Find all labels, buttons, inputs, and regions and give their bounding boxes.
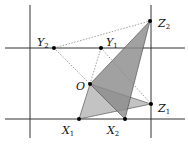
point-x1 <box>77 117 81 121</box>
dotted-y2-o <box>54 48 90 84</box>
point-x2 <box>123 117 127 121</box>
point-y1 <box>99 46 103 50</box>
label-o: O <box>76 80 85 93</box>
label-x2: X2 <box>106 124 119 138</box>
label-x1: X1 <box>61 124 74 138</box>
point-o <box>88 82 92 86</box>
geometry-diagram: Z2 Y2 Y1 O Z1 X1 X2 <box>0 0 188 158</box>
label-y2: Y2 <box>37 36 49 50</box>
point-z1 <box>149 102 153 106</box>
label-y1: Y1 <box>106 36 118 50</box>
point-z2 <box>148 19 152 23</box>
label-z2: Z2 <box>157 17 170 31</box>
point-y2 <box>52 46 56 50</box>
label-z1: Z1 <box>157 102 170 116</box>
